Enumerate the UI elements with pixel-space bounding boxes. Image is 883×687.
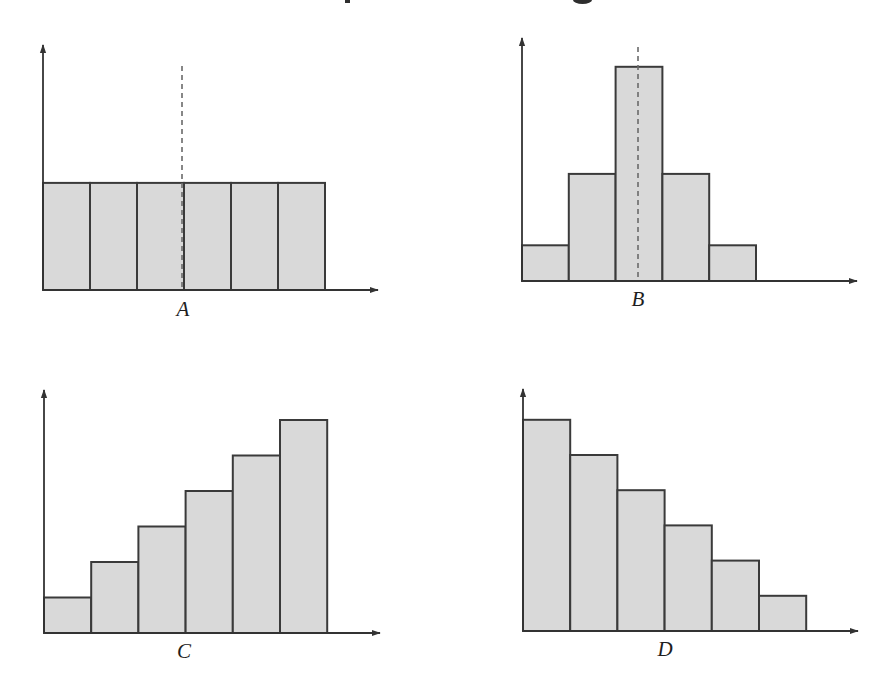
histogram-bar	[280, 420, 327, 633]
panel-label: A	[175, 297, 190, 321]
histogram-bar	[137, 183, 184, 290]
histogram-bar	[138, 527, 185, 634]
histogram-bar	[712, 561, 759, 631]
histogram-comparison-figure: ABCD	[0, 0, 883, 687]
histogram-bar	[184, 183, 231, 290]
histogram-bar	[278, 183, 325, 290]
title-fragment	[345, 0, 350, 3]
histogram-bar	[709, 245, 756, 281]
histogram-bar	[522, 245, 569, 281]
histogram-bar	[759, 596, 806, 631]
histogram-b: B	[522, 38, 857, 311]
histogram-c: C	[44, 390, 380, 663]
chart-panels: ABCD	[0, 0, 883, 687]
histogram-bar	[569, 174, 616, 281]
histogram-bar	[616, 67, 663, 281]
histogram-bar	[90, 183, 137, 290]
histogram-bar	[43, 183, 90, 290]
panel-label: D	[656, 637, 672, 661]
histogram-bar	[233, 456, 280, 634]
histogram-bar	[665, 525, 712, 631]
panel-label: B	[632, 287, 645, 311]
histogram-bar	[186, 491, 233, 633]
histogram-bar	[662, 174, 709, 281]
panel-label: C	[177, 639, 192, 663]
histogram-bar	[523, 420, 570, 631]
histogram-bar	[617, 490, 664, 631]
histogram-bar	[570, 455, 617, 631]
histogram-bar	[91, 562, 138, 633]
histogram-bar	[44, 598, 91, 634]
histogram-d: D	[523, 389, 858, 661]
histogram-a: A	[43, 45, 378, 321]
histogram-bar	[231, 183, 278, 290]
